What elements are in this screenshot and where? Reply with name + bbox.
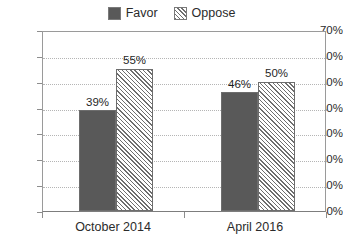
x-category-label-april-2016: April 2016: [227, 221, 283, 234]
x-tick-mark-end: [326, 212, 327, 218]
bar-value-april-2016-oppose: 50%: [258, 68, 295, 80]
bar-april-2016-oppose: [258, 82, 295, 211]
legend-swatch-favor-icon: [108, 7, 121, 20]
x-category-label-october-2014: October 2014: [75, 221, 151, 234]
bar-value-april-2016-favor: 46%: [221, 79, 258, 91]
plot-area: 39% 55% 46% 50%: [42, 31, 326, 212]
legend-entry-oppose: Oppose: [174, 7, 236, 20]
x-tick-mark-start: [42, 212, 43, 218]
bar-october-2014-oppose: [116, 69, 153, 211]
gridline-60: [43, 58, 327, 59]
legend-entry-favor: Favor: [108, 7, 158, 20]
x-tick-mark-middle: [184, 212, 185, 218]
bar-april-2016-favor: [221, 92, 258, 211]
chart-legend: Favor Oppose: [0, 7, 343, 20]
bar-value-october-2014-favor: 39%: [79, 97, 116, 109]
bar-value-october-2014-oppose: 55%: [116, 55, 153, 67]
clipped-title-strip: [150, 0, 340, 5]
bar-chart: Favor Oppose 70% 60% 50% 40% 30% 20% 10%…: [0, 0, 343, 244]
legend-label-oppose: Oppose: [192, 7, 236, 20]
bar-october-2014-favor: [79, 110, 116, 211]
legend-label-favor: Favor: [126, 7, 158, 20]
legend-swatch-oppose-icon: [174, 7, 187, 20]
